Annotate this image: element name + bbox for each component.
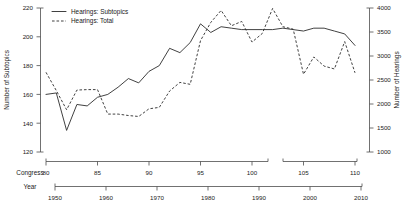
left-axis-line [41, 8, 44, 152]
right-tick-2000: 2000 [377, 100, 391, 107]
right-axis-title: Number of Hearings [393, 51, 401, 108]
left-tick-220: 220 [23, 4, 34, 11]
congress-tick-100: 100 [247, 169, 258, 176]
congress-axis-line [46, 159, 268, 162]
left-tick-160: 160 [23, 91, 34, 98]
right-axis-line [367, 8, 370, 152]
congress-tick-85: 85 [94, 169, 101, 176]
year-axis-ticks [55, 187, 361, 191]
right-axis: 4000 3500 3000 2500 2000 1500 1000 Numbe… [367, 4, 402, 155]
year-tick-2000: 2000 [303, 194, 317, 201]
congress-tick-90: 90 [146, 169, 153, 176]
left-tick-120: 120 [23, 148, 34, 155]
left-axis: 220 200 180 160 140 120 Number of Subtop… [3, 4, 44, 155]
chart-legend: Hearings: Subtopics Hearings: Total [52, 8, 128, 26]
left-tick-200: 200 [23, 33, 34, 40]
right-axis-ticks [370, 8, 374, 152]
congress-tick-110: 110 [350, 169, 360, 176]
left-axis-title: Number of Subtopics [3, 50, 11, 110]
right-tick-1500: 1500 [377, 124, 391, 131]
legend-label-subtopics: Hearings: Subtopics [71, 8, 128, 16]
left-axis-ticks [37, 8, 41, 152]
year-tick-1950: 1950 [48, 194, 62, 201]
congress-tick-105: 105 [298, 169, 309, 176]
year-tick-1960: 1960 [99, 194, 113, 201]
congress-axis: 80 85 90 95 100 105 110 Congress [16, 159, 360, 178]
year-tick-1980: 1980 [201, 194, 215, 201]
congress-axis-line-2 [283, 159, 357, 162]
series-line-subtopics [46, 24, 355, 131]
left-tick-180: 180 [23, 62, 34, 69]
congress-tick-95: 95 [197, 169, 204, 176]
plot-series-group [46, 8, 355, 130]
legend-label-total: Hearings: Total [71, 17, 114, 25]
chart-canvas: 220 200 180 160 140 120 Number of Subtop… [0, 0, 407, 208]
year-axis-title: Year [24, 183, 38, 190]
right-tick-3000: 3000 [377, 52, 391, 59]
year-axis-line [55, 184, 362, 187]
year-tick-1970: 1970 [150, 194, 164, 201]
chart-figure: 220 200 180 160 140 120 Number of Subtop… [0, 0, 407, 208]
year-tick-1990: 1990 [252, 194, 266, 201]
year-axis: 1950 1960 1970 1980 1990 2000 2010 Year [24, 183, 369, 201]
congress-axis-ticks [46, 162, 355, 166]
congress-axis-title: Congress [16, 169, 43, 177]
year-tick-2010: 2010 [354, 194, 368, 201]
right-tick-2500: 2500 [377, 76, 391, 83]
right-tick-3500: 3500 [377, 28, 391, 35]
right-tick-4000: 4000 [377, 4, 391, 11]
right-tick-1000: 1000 [377, 148, 391, 155]
left-tick-140: 140 [23, 120, 34, 127]
